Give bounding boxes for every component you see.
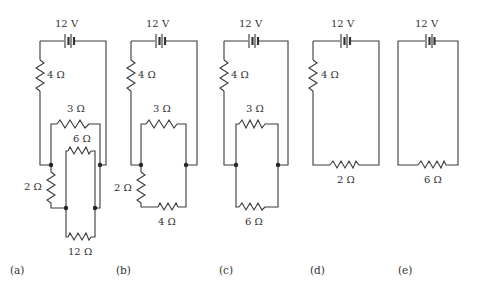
resistor-label: 2 Ω xyxy=(24,181,42,192)
junction-node xyxy=(93,206,97,210)
resistor-label: 3 Ω xyxy=(246,103,264,114)
battery-icon xyxy=(249,34,258,48)
wire xyxy=(313,91,330,165)
wire xyxy=(265,165,278,207)
resistor-4ohm xyxy=(127,60,135,91)
wire xyxy=(178,165,186,207)
resistor-4ohm xyxy=(220,60,228,91)
wire xyxy=(40,91,51,165)
resistor-6ohm xyxy=(68,147,91,154)
resistor-label: 2 Ω xyxy=(337,174,355,185)
panel-a: 12 V 4 Ω 3 Ω 2 Ω 6 Ω 12 Ω xyxy=(10,18,106,276)
resistor-2ohm xyxy=(330,161,362,168)
wire xyxy=(265,124,278,165)
battery-icon xyxy=(156,34,165,48)
battery-label-d: 12 V xyxy=(331,18,355,29)
wire xyxy=(177,124,186,165)
resistor-label: 4 Ω xyxy=(231,69,249,80)
wire xyxy=(313,41,379,165)
resistor-6ohm xyxy=(239,203,265,210)
wire xyxy=(236,124,239,165)
wire xyxy=(236,165,239,207)
resistor-2ohm xyxy=(137,165,158,207)
resistor-4ohm-bottom xyxy=(158,203,178,210)
resistor-label: 6 Ω xyxy=(424,174,442,185)
battery-label-c: 12 V xyxy=(239,18,263,29)
battery-icon xyxy=(65,34,74,48)
circuit-reduction-diagram: 12 V 4 Ω 3 Ω 2 Ω 6 Ω 12 Ω xyxy=(0,0,478,291)
wire xyxy=(224,91,236,165)
resistor-label: 12 Ω xyxy=(68,246,92,257)
panel-b: 12 V 4 Ω 3 Ω 2 Ω 4 Ω (b) xyxy=(114,18,197,276)
panel-e: 12 V 6 Ω (e) xyxy=(398,18,458,276)
resistor-4ohm xyxy=(309,60,317,91)
panel-c: 12 V 4 Ω 3 Ω 6 Ω (c) xyxy=(219,18,288,276)
wire xyxy=(95,165,100,208)
battery-label-b: 12 V xyxy=(146,18,170,29)
wire xyxy=(91,151,95,208)
panel-d: 12 V 4 Ω 2 Ω (d) xyxy=(309,18,379,276)
wire xyxy=(131,91,141,165)
resistor-2ohm xyxy=(47,165,66,208)
resistor-label: 6 Ω xyxy=(73,133,91,144)
resistor-12ohm xyxy=(68,233,91,240)
resistor-label: 4 Ω xyxy=(138,69,156,80)
resistor-6ohm xyxy=(418,161,448,168)
panel-caption: (b) xyxy=(116,264,131,276)
resistor-3ohm xyxy=(239,120,265,128)
resistor-label: 2 Ω xyxy=(114,182,132,193)
resistor-label: 4 Ω xyxy=(321,69,339,80)
wire xyxy=(66,208,68,237)
wire xyxy=(398,41,458,165)
resistor-label: 4 Ω xyxy=(158,216,176,227)
wire xyxy=(398,41,418,165)
resistor-4ohm xyxy=(36,60,44,91)
panel-caption: (d) xyxy=(310,264,325,276)
junction-node xyxy=(64,206,68,210)
panel-caption: (a) xyxy=(10,264,24,276)
resistor-label: 6 Ω xyxy=(245,216,263,227)
wire xyxy=(141,124,146,165)
resistor-label: 3 Ω xyxy=(153,103,171,114)
wire xyxy=(91,208,95,237)
battery-label-e: 12 V xyxy=(415,18,439,29)
resistor-label: 3 Ω xyxy=(67,103,85,114)
battery-label-a: 12 V xyxy=(55,18,79,29)
resistor-label: 4 Ω xyxy=(47,69,65,80)
panel-caption: (c) xyxy=(219,264,233,276)
resistor-3ohm xyxy=(57,120,89,128)
resistor-3ohm xyxy=(146,120,177,128)
battery-icon xyxy=(341,34,350,48)
panel-caption: (e) xyxy=(398,264,412,276)
wire xyxy=(51,124,57,165)
battery-icon xyxy=(426,34,435,48)
wire xyxy=(66,151,68,208)
